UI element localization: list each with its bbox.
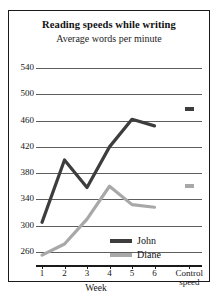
- y-tick-label: 300: [8, 221, 34, 230]
- y-tick-label: 340: [8, 194, 34, 203]
- control-speed-label-line2: speed: [167, 278, 211, 287]
- x-tick-label: 6: [140, 269, 170, 278]
- legend-swatch-john: [110, 239, 132, 243]
- legend-label: Diane: [137, 248, 161, 262]
- control-speed-marker-diane: [185, 184, 194, 188]
- y-tick-label: 500: [8, 89, 34, 98]
- y-tick-label: 420: [8, 142, 34, 151]
- legend-item-diane: Diane: [110, 248, 190, 262]
- legend-item-john: John: [110, 234, 190, 248]
- x-axis-title: Week: [36, 283, 156, 293]
- control-speed-axis-label: Controlspeed: [167, 269, 211, 288]
- control-speed-marker-john: [185, 107, 194, 111]
- legend-label: John: [137, 234, 156, 248]
- legend-swatch-diane: [110, 253, 132, 257]
- y-tick-label: 460: [8, 116, 34, 125]
- y-tick-label: 380: [8, 168, 34, 177]
- y-tick-label: 260: [8, 247, 34, 256]
- y-tick-label: 540: [8, 63, 34, 72]
- x-axis-line: [36, 265, 202, 267]
- chart-title: Reading speeds while writing: [8, 19, 210, 30]
- y-axis-labels: 260300340380420460500540: [4, 55, 34, 265]
- chart-legend: JohnDiane: [110, 234, 190, 262]
- chart-subtitle: Average words per minute: [8, 33, 210, 44]
